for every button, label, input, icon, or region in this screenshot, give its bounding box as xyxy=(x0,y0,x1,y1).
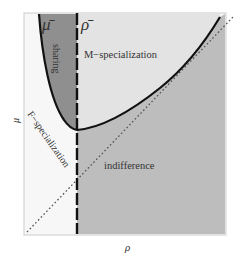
phase-diagram: μ̄ ρ̄ sharing M−specialization F−special… xyxy=(0,0,249,264)
region-label-sharing: sharing xyxy=(51,44,62,73)
region-label-indifference: indifference xyxy=(104,160,155,171)
x-axis-label: ρ xyxy=(124,241,130,253)
y-axis-label: μ xyxy=(10,118,21,124)
region-label-m-specialization: M−specialization xyxy=(84,49,158,60)
